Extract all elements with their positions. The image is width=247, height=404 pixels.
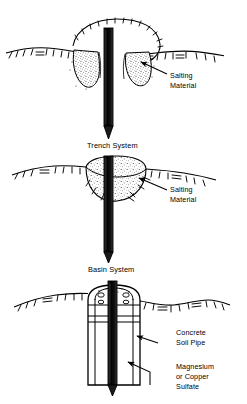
magnesium-sulfate-label-line3: Sulfate [176, 382, 199, 391]
grounding-electrode-diagram: Salting Material Trench System [0, 0, 247, 404]
panel-caption-trench: Trench System [87, 141, 138, 150]
ground-rod-pipe [108, 281, 117, 396]
magnesium-sulfate-label: Magnesium [176, 362, 214, 371]
panel-caption-basin: Basin System [88, 265, 134, 274]
salting-material-label-basin-line2: Material [170, 195, 197, 204]
magnesium-sulfate-label-line2: or Copper [176, 372, 209, 381]
salting-material-label-trench: Salting [170, 71, 193, 80]
concrete-soil-pipe-label-line2: Soil Pipe [176, 338, 205, 347]
ground-rod-basin [104, 156, 113, 263]
salting-material-label-basin: Salting [170, 185, 193, 194]
ground-rod-trench [104, 28, 113, 139]
salting-material-label-trench-line2: Material [170, 81, 197, 90]
concrete-soil-pipe-label: Concrete [176, 328, 206, 337]
